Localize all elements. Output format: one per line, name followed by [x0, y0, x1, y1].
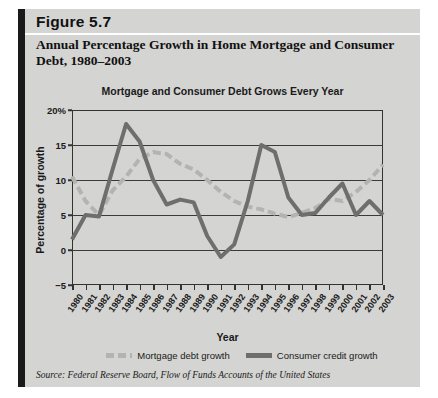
y-axis-label: Percentage of growth: [32, 117, 48, 282]
x-tick-mark: [207, 285, 209, 290]
x-tick-mark: [221, 285, 223, 290]
chart-title: Mortgage and Consumer Debt Grows Every Y…: [25, 85, 420, 97]
y-tick-label: −5: [55, 280, 66, 291]
x-tick-mark: [194, 285, 196, 290]
x-tick-mark: [180, 285, 182, 290]
legend-label-consumer: Consumer credit growth: [277, 350, 378, 361]
figure-title: Annual Percentage Growth in Home Mortgag…: [36, 37, 406, 69]
x-tick-mark: [383, 285, 385, 290]
x-tick-mark: [315, 285, 317, 290]
x-tick-mark: [302, 285, 304, 290]
plot-area: −505101520% 1980198119821983198419851986…: [72, 110, 383, 285]
x-tick-mark: [248, 285, 250, 290]
x-tick-mark: [288, 285, 290, 290]
x-tick-mark: [99, 285, 101, 290]
figure-divider: [25, 33, 420, 35]
figure-number: Figure 5.7: [36, 13, 111, 31]
figure-source: Source: Federal Reserve Board, Flow of F…: [36, 370, 416, 380]
x-tick-mark: [72, 285, 74, 290]
y-tick-label: 15: [55, 140, 66, 151]
x-tick-mark: [329, 285, 331, 290]
figure-left-rule: [18, 9, 25, 387]
x-tick-mark: [261, 285, 263, 290]
x-tick-mark: [369, 285, 371, 290]
series-layer: [72, 110, 383, 285]
x-tick-mark: [167, 285, 169, 290]
y-tick-label: 5: [61, 210, 66, 221]
y-tick-label: 10: [55, 175, 66, 186]
y-tick-label: 0: [61, 245, 66, 256]
series-line-mortgage: [72, 152, 383, 217]
x-axis-label: Year: [72, 331, 383, 343]
x-tick-mark: [342, 285, 344, 290]
x-tick-mark: [86, 285, 88, 290]
x-tick-mark: [153, 285, 155, 290]
y-axis-label-text: Percentage of growth: [34, 146, 46, 253]
legend-swatch-mortgage-icon: [106, 353, 132, 358]
x-tick-mark: [356, 285, 358, 290]
x-tick-mark: [275, 285, 277, 290]
legend-item-mortgage: Mortgage debt growth: [106, 350, 229, 361]
chart-legend: Mortgage debt growth Consumer credit gro…: [72, 350, 412, 361]
x-tick-mark: [140, 285, 142, 290]
legend-swatch-consumer-icon: [246, 353, 272, 358]
x-tick-mark: [113, 285, 115, 290]
series-line-consumer: [72, 124, 383, 257]
legend-item-consumer: Consumer credit growth: [246, 350, 378, 361]
legend-label-mortgage: Mortgage debt growth: [137, 350, 229, 361]
figure-card: Figure 5.7 Annual Percentage Growth in H…: [18, 9, 420, 387]
x-tick-mark: [126, 285, 128, 290]
y-tick-label: 20%: [47, 105, 66, 116]
x-tick-mark: [234, 285, 236, 290]
